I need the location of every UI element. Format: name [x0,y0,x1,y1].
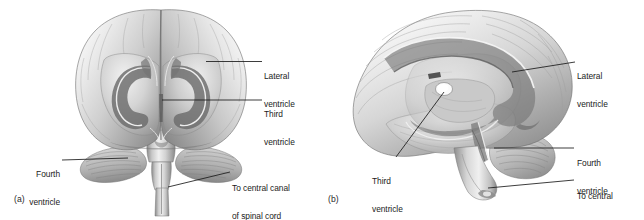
label-line-1: Fourth [0,170,60,179]
panel-a: Lateral ventricle Third ventricle Fourth… [0,0,322,220]
leader-central-canal [488,180,574,188]
panel-letter-b: (b) [328,194,339,204]
cerebrum-group-b [353,10,572,163]
label-line-1: Fourth [577,159,608,168]
label-line-1: To central canal [232,184,290,193]
label-line-2: ventricle [372,205,403,214]
cerebrum-group [76,10,247,150]
panel-b: Lateral ventricle Third ventricle Fourth… [322,0,644,220]
label-central-canal-b: To central canal of spinal cord [577,173,617,220]
label-lateral-ventricle-b: Lateral ventricle [577,53,608,128]
ventricles-figure: Lateral ventricle Third ventricle Fourth… [0,0,644,220]
label-line-2: ventricle [577,100,608,109]
label-line-2: ventricle [264,138,295,147]
label-line-1: Lateral [577,72,608,81]
label-line-1: Lateral [264,72,295,81]
label-third-ventricle-a: Third ventricle [264,91,295,166]
label-central-canal-a: To central canal of spinal cord [232,165,290,220]
label-line-1: Third [264,110,295,119]
label-line-1: Third [372,177,403,186]
label-fourth-ventricle-a: Fourth ventricle [0,151,60,220]
panel-letter-a: (a) [14,194,25,204]
label-line-1: To central [577,192,617,201]
label-third-ventricle-b: Third ventricle [372,158,403,220]
label-line-2: of spinal cord [232,212,290,220]
label-line-2: ventricle [0,198,60,207]
